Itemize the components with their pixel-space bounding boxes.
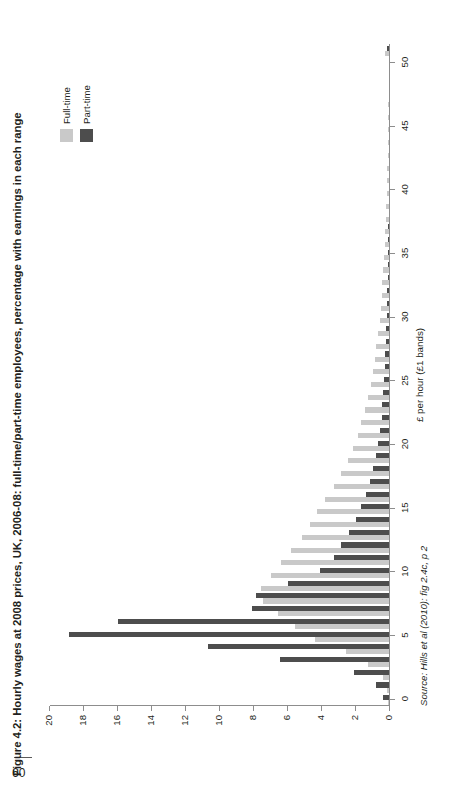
pounds-tick-label: 45 xyxy=(399,120,410,131)
chart-legend: Full-time Part-time xyxy=(60,85,93,142)
bar-full-time xyxy=(361,420,390,425)
percentage-tick: 8 xyxy=(253,706,254,711)
percentage-tick-label: 16 xyxy=(111,715,122,726)
bar-part-time xyxy=(118,619,390,624)
pounds-tick-label: 25 xyxy=(399,375,410,386)
percentage-tick: 20 xyxy=(49,706,50,711)
percentage-tick-label: 20 xyxy=(43,715,54,726)
pounds-tick: 5 xyxy=(390,635,395,636)
legend-label-full-time: Full-time xyxy=(61,87,72,124)
bar-full-time xyxy=(375,357,390,362)
pounds-tick: 15 xyxy=(390,508,395,509)
percentage-axis-line xyxy=(50,705,390,706)
pounds-tick-label: 50 xyxy=(399,57,410,68)
percentage-tick: 4 xyxy=(321,706,322,711)
pounds-tick-label: 30 xyxy=(399,311,410,322)
bar-full-time xyxy=(271,573,390,578)
chart-plot-area: 02468101214161820 05101520253035404550 £… xyxy=(50,44,390,706)
pounds-tick-label: 35 xyxy=(399,248,410,259)
figure-rotation-wrapper: Figure 4.2: Hourly wages at 2008 prices,… xyxy=(0,0,450,802)
figure-title: Figure 4.2: Hourly wages at 2008 prices,… xyxy=(10,20,24,776)
pounds-axis-line xyxy=(389,44,390,706)
bar-full-time xyxy=(317,509,390,514)
percentage-tick: 12 xyxy=(185,706,186,711)
bar-full-time xyxy=(263,598,391,603)
figure-4-2: Figure 4.2: Hourly wages at 2008 prices,… xyxy=(0,0,450,802)
bar-full-time xyxy=(353,446,390,451)
pounds-tick-label: 15 xyxy=(399,502,410,513)
percentage-tick-label: 4 xyxy=(315,715,326,720)
percentage-tick: 10 xyxy=(219,706,220,711)
bar-part-time xyxy=(376,682,390,687)
bar-part-time xyxy=(252,606,390,611)
figure-source-note: Source: Hills et al (2010): fig 2.4c, p … xyxy=(418,546,429,706)
pounds-tick: 25 xyxy=(390,380,395,381)
bar-full-time xyxy=(341,471,390,476)
bar-part-time xyxy=(356,517,390,522)
bar-part-time xyxy=(370,479,390,484)
legend-item-part-time: Part-time xyxy=(80,85,93,142)
bar-full-time xyxy=(261,586,390,591)
pounds-tick-label: 0 xyxy=(399,696,410,701)
pounds-tick: 30 xyxy=(390,317,395,318)
bar-part-time xyxy=(349,530,390,535)
percentage-tick: 2 xyxy=(355,706,356,711)
bar-part-time xyxy=(373,466,390,471)
percentage-tick-label: 10 xyxy=(213,715,224,726)
bar-full-time xyxy=(334,484,390,489)
bar-part-time xyxy=(341,542,390,547)
bar-full-time xyxy=(368,395,390,400)
percentage-tick: 6 xyxy=(287,706,288,711)
pounds-tick: 45 xyxy=(390,126,395,127)
bar-full-time xyxy=(376,344,390,349)
pounds-tick: 40 xyxy=(390,189,395,190)
bar-part-time xyxy=(366,492,390,497)
percentage-tick: 16 xyxy=(117,706,118,711)
bar-part-time xyxy=(376,453,390,458)
bar-part-time xyxy=(280,657,391,662)
pounds-tick: 0 xyxy=(390,699,395,700)
bar-part-time xyxy=(208,644,390,649)
bar-full-time xyxy=(295,624,390,629)
bar-full-time xyxy=(358,433,390,438)
bar-full-time xyxy=(373,369,390,374)
bar-full-time xyxy=(348,458,391,463)
bar-part-time xyxy=(288,581,390,586)
percentage-tick-label: 8 xyxy=(247,715,258,720)
bar-full-time xyxy=(325,497,390,502)
bar-full-time xyxy=(315,637,390,642)
bar-full-time xyxy=(281,560,390,565)
legend-item-full-time: Full-time xyxy=(60,85,73,142)
pounds-tick: 10 xyxy=(390,571,395,572)
pounds-tick: 35 xyxy=(390,253,395,254)
pounds-tick-label: 10 xyxy=(399,566,410,577)
bar-full-time xyxy=(368,662,390,667)
pounds-tick: 20 xyxy=(390,444,395,445)
pounds-tick-label: 40 xyxy=(399,184,410,195)
pounds-tick-label: 20 xyxy=(399,439,410,450)
bar-full-time xyxy=(291,548,390,553)
bar-full-time xyxy=(365,408,391,413)
percentage-tick-label: 14 xyxy=(145,715,156,726)
bar-part-time xyxy=(361,504,390,509)
percentage-tick-label: 12 xyxy=(179,715,190,726)
percentage-tick-label: 0 xyxy=(383,715,394,720)
bar-full-time xyxy=(278,611,390,616)
bar-part-time xyxy=(320,568,390,573)
percentage-tick: 18 xyxy=(83,706,84,711)
pounds-tick-label: 5 xyxy=(399,632,410,637)
bar-part-time xyxy=(256,593,390,598)
bar-full-time xyxy=(302,535,390,540)
pounds-tick: 50 xyxy=(390,62,395,63)
legend-swatch-part-time-icon xyxy=(80,129,93,142)
bar-full-time xyxy=(346,649,390,654)
bar-full-time xyxy=(310,522,390,527)
legend-swatch-full-time-icon xyxy=(60,129,73,142)
bar-part-time xyxy=(334,555,390,560)
bar-part-time xyxy=(69,632,390,637)
percentage-tick-label: 18 xyxy=(77,715,88,726)
percentage-tick-label: 6 xyxy=(281,715,292,720)
legend-label-part-time: Part-time xyxy=(81,85,92,124)
percentage-tick-label: 2 xyxy=(349,715,360,720)
percentage-tick: 14 xyxy=(151,706,152,711)
